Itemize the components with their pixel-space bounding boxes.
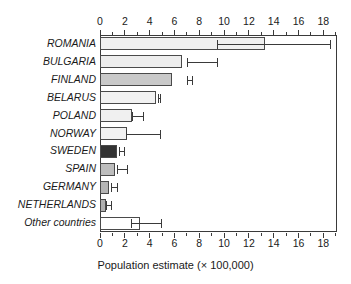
error-bar-cap-high bbox=[124, 147, 125, 156]
bar bbox=[100, 145, 117, 158]
x-tick-major bbox=[199, 30, 200, 35]
x-tick-label: 4 bbox=[138, 16, 162, 27]
x-tick-label: 8 bbox=[187, 238, 211, 249]
error-bar-cap-low bbox=[132, 112, 133, 121]
x-tick-major bbox=[224, 30, 225, 35]
x-tick-minor bbox=[112, 233, 113, 236]
error-bar-cap-high bbox=[111, 201, 112, 210]
x-tick-label: 6 bbox=[162, 238, 186, 249]
category-label: NORWAY bbox=[0, 128, 96, 139]
bar bbox=[100, 181, 109, 194]
error-bar-cap-high bbox=[217, 58, 218, 67]
error-bar-cap-low bbox=[217, 40, 218, 49]
x-tick-minor bbox=[236, 233, 237, 236]
error-bar-cap-high bbox=[161, 219, 162, 228]
error-bar-line bbox=[126, 134, 160, 135]
x-tick-label: 4 bbox=[138, 238, 162, 249]
x-tick-label: 0 bbox=[88, 16, 112, 27]
x-tick-minor bbox=[310, 32, 311, 35]
bar bbox=[100, 127, 127, 140]
bar-chart: 024681012141618 024681012141618 ROMANIAB… bbox=[0, 0, 351, 284]
x-tick-label: 10 bbox=[212, 238, 236, 249]
bar bbox=[100, 163, 115, 176]
x-tick-minor bbox=[162, 32, 163, 35]
category-label: GERMANY bbox=[0, 181, 96, 192]
error-bar-cap-low bbox=[187, 76, 188, 85]
x-tick-label: 18 bbox=[311, 238, 335, 249]
x-tick-major bbox=[124, 30, 125, 35]
x-tick-label: 2 bbox=[113, 238, 137, 249]
x-tick-major bbox=[174, 30, 175, 35]
category-label: BULGARIA bbox=[0, 56, 96, 67]
x-tick-minor bbox=[137, 233, 138, 236]
x-tick-label: 14 bbox=[262, 238, 286, 249]
x-tick-label: 14 bbox=[262, 16, 286, 27]
bar bbox=[100, 199, 106, 212]
x-tick-minor bbox=[186, 233, 187, 236]
category-label: NETHERLANDS bbox=[0, 199, 96, 210]
x-tick-minor bbox=[335, 233, 336, 236]
x-tick-label: 12 bbox=[237, 238, 261, 249]
x-tick-minor bbox=[261, 32, 262, 35]
error-bar-line bbox=[132, 116, 143, 117]
x-tick-minor bbox=[261, 233, 262, 236]
error-bar-cap-high bbox=[143, 112, 144, 121]
error-bar-cap-low bbox=[106, 201, 107, 210]
error-bar-line bbox=[187, 62, 217, 63]
x-tick-label: 6 bbox=[162, 16, 186, 27]
x-tick-label: 8 bbox=[187, 16, 211, 27]
bar bbox=[100, 73, 172, 86]
error-bar-cap-low bbox=[131, 219, 132, 228]
x-tick-minor bbox=[335, 32, 336, 35]
error-bar-cap-low bbox=[111, 183, 112, 192]
x-tick-minor bbox=[310, 233, 311, 236]
x-tick-minor bbox=[137, 32, 138, 35]
error-bar-cap-high bbox=[192, 76, 193, 85]
error-bar-line bbox=[217, 44, 330, 45]
x-axis-title: Population estimate (× 100,000) bbox=[0, 259, 351, 271]
x-tick-minor bbox=[186, 32, 187, 35]
x-tick-label: 16 bbox=[287, 16, 311, 27]
category-label: Other countries bbox=[0, 217, 96, 228]
x-tick-label: 10 bbox=[212, 16, 236, 27]
category-label: POLAND bbox=[0, 110, 96, 121]
x-tick-major bbox=[298, 30, 299, 35]
x-tick-minor bbox=[211, 233, 212, 236]
error-bar-line bbox=[117, 169, 127, 170]
error-bar-line bbox=[131, 223, 161, 224]
x-tick-major bbox=[248, 30, 249, 35]
bar bbox=[100, 109, 132, 122]
x-tick-label: 18 bbox=[311, 16, 335, 27]
x-tick-minor bbox=[236, 32, 237, 35]
x-tick-minor bbox=[112, 32, 113, 35]
error-bar-cap-high bbox=[160, 130, 161, 139]
x-tick-major bbox=[100, 30, 101, 35]
x-tick-minor bbox=[286, 32, 287, 35]
x-tick-major bbox=[323, 30, 324, 35]
x-tick-label: 0 bbox=[88, 238, 112, 249]
category-label: SPAIN bbox=[0, 163, 96, 174]
category-label: ROMANIA bbox=[0, 38, 96, 49]
x-tick-label: 16 bbox=[287, 238, 311, 249]
error-bar-cap-low bbox=[187, 58, 188, 67]
category-label: FINLAND bbox=[0, 74, 96, 85]
x-tick-minor bbox=[211, 32, 212, 35]
error-bar-cap-high bbox=[330, 40, 331, 49]
x-tick-minor bbox=[286, 233, 287, 236]
error-bar-cap-low bbox=[119, 147, 120, 156]
error-bar-cap-high bbox=[127, 165, 128, 174]
x-tick-major bbox=[149, 30, 150, 35]
bar bbox=[100, 91, 156, 104]
x-tick-label: 2 bbox=[113, 16, 137, 27]
x-tick-major bbox=[273, 30, 274, 35]
error-bar-cap-high bbox=[160, 94, 161, 103]
error-bar-cap-high bbox=[117, 183, 118, 192]
category-label: BELARUS bbox=[0, 92, 96, 103]
x-tick-label: 12 bbox=[237, 16, 261, 27]
bar bbox=[100, 55, 182, 68]
x-tick-minor bbox=[162, 233, 163, 236]
error-bar-cap-low bbox=[126, 130, 127, 139]
category-label: SWEDEN bbox=[0, 145, 96, 156]
error-bar-cap-low bbox=[117, 165, 118, 174]
